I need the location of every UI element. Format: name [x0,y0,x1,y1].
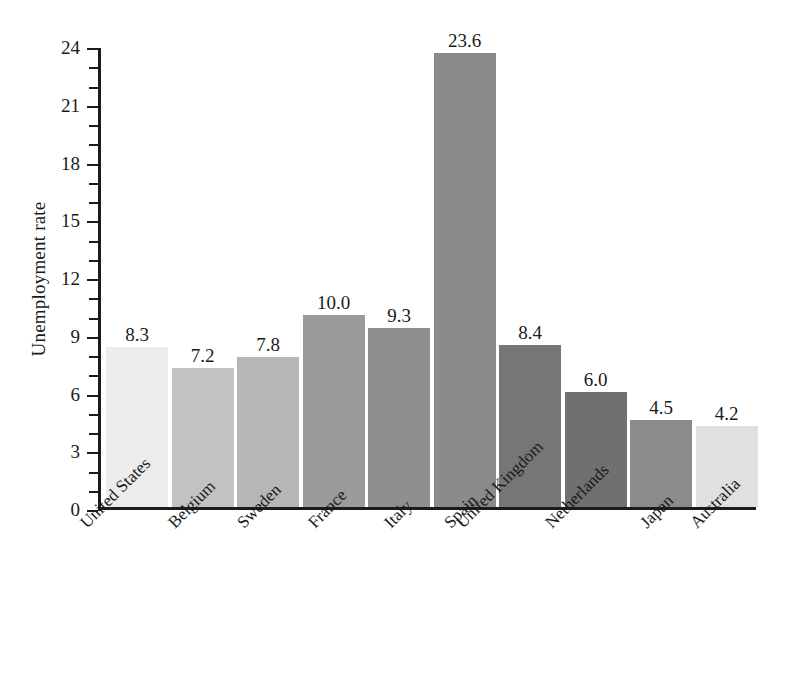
bar-value-label: 4.5 [649,398,673,417]
bar-slot: 10.0 [303,315,365,508]
y-axis-tick-label: 18 [61,154,80,173]
bars-layer: 8.37.27.810.09.323.68.46.04.54.2 [101,48,756,507]
bar-value-label: 8.4 [518,323,542,342]
y-axis-tick-label: 12 [61,269,80,288]
bar-slot: 9.3 [368,328,430,507]
y-axis-tick-label: 3 [71,442,81,461]
bar-value-label: 6.0 [584,370,608,389]
y-axis-tick-label: 15 [61,211,80,230]
y-axis-title: Unemployment rate [24,48,54,510]
y-axis-minor-tick [89,241,98,243]
y-axis-major-tick: 3 [87,452,98,454]
y-axis-minor-tick [89,125,98,127]
y-axis-minor-tick [89,491,98,493]
bar-chart: Unemployment rate 03691215182124 8.37.27… [0,0,794,680]
bar-value-label: 8.3 [125,325,149,344]
bar-value-label: 9.3 [387,306,411,325]
y-axis-major-tick: 6 [87,395,98,397]
bar-slot: 23.6 [434,53,496,507]
y-axis-minor-tick [89,318,98,320]
bar-value-label: 7.2 [191,346,215,365]
y-axis-minor-tick [89,356,98,358]
y-axis-tick-label: 24 [61,38,80,57]
y-axis-major-tick: 15 [87,221,98,223]
y-axis-minor-tick [89,375,98,377]
bar-value-label: 7.8 [256,335,280,354]
bar-value-label: 23.6 [448,31,481,50]
bar-value-label: 10.0 [317,293,350,312]
y-axis-minor-tick [89,87,98,89]
plot-area: 03691215182124 8.37.27.810.09.323.68.46.… [98,48,756,510]
y-axis-major-tick: 9 [87,337,98,339]
y-axis-major-tick: 18 [87,164,98,166]
y-axis-minor-tick [89,260,98,262]
y-axis-minor-tick [89,67,98,69]
y-axis-tick-label: 9 [71,327,81,346]
bar [303,315,365,508]
bar [434,53,496,507]
y-axis-major-tick: 21 [87,106,98,108]
y-axis-tick-label: 21 [61,96,80,115]
y-axis-minor-tick [89,183,98,185]
y-axis-minor-tick [89,472,98,474]
y-axis-minor-tick [89,202,98,204]
y-axis-major-tick: 12 [87,279,98,281]
y-axis-minor-tick [89,298,98,300]
y-axis-minor-tick [89,433,98,435]
y-axis-major-tick: 24 [87,48,98,50]
y-axis-minor-tick [89,414,98,416]
y-axis-tick-label: 6 [71,385,81,404]
x-axis-category-labels: United StatesBelgiumSwedenFranceItalySpa… [98,513,756,653]
y-axis-minor-tick [89,144,98,146]
bar [368,328,430,507]
bar-value-label: 4.2 [715,404,739,423]
